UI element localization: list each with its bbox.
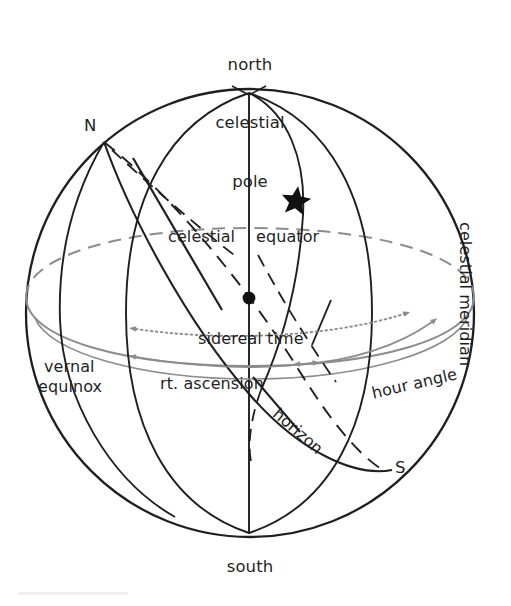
equinox-label: equinox	[38, 378, 102, 397]
celestial-sphere-diagram: north celestial pole south celestial pol…	[0, 0, 511, 606]
north-point-label: N	[84, 116, 96, 135]
page-edge-artifact	[18, 592, 128, 595]
celestial-word-label: celestial	[168, 228, 235, 247]
south-pole-line-1: south	[191, 557, 309, 576]
rt-ascension-label: rt. ascension	[160, 375, 264, 394]
north-pole-line-3: pole	[191, 172, 309, 191]
south-point-label: S	[395, 458, 406, 477]
vernal-label: vernal	[44, 358, 95, 377]
north-pole-line-1: north	[191, 55, 309, 74]
south-celestial-pole-label: south celestial pole	[191, 518, 309, 606]
celestial-equator-back-arc	[26, 228, 474, 297]
equator-word-label: equator	[256, 228, 319, 247]
north-pole-line-2: celestial	[191, 113, 309, 132]
sidereal-time-label: sidereal time	[198, 330, 304, 349]
meridian-tick-line	[312, 300, 331, 345]
center-observer-dot	[243, 292, 256, 305]
north-celestial-pole-label: north celestial pole	[191, 16, 309, 230]
celestial-meridian-label: celestial meridian	[455, 222, 474, 366]
